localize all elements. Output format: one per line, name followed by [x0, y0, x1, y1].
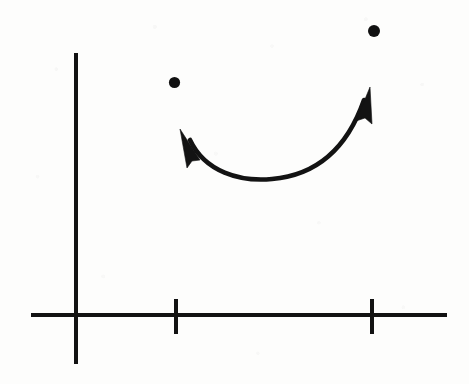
- data-point-right: [368, 25, 380, 37]
- figure-drawing: [0, 0, 469, 384]
- curved-arrow-right-arrowhead: [356, 87, 372, 124]
- scanned-figure-canvas: [0, 0, 469, 384]
- data-point-left: [169, 77, 180, 88]
- curved-arrow-shaft: [190, 100, 364, 180]
